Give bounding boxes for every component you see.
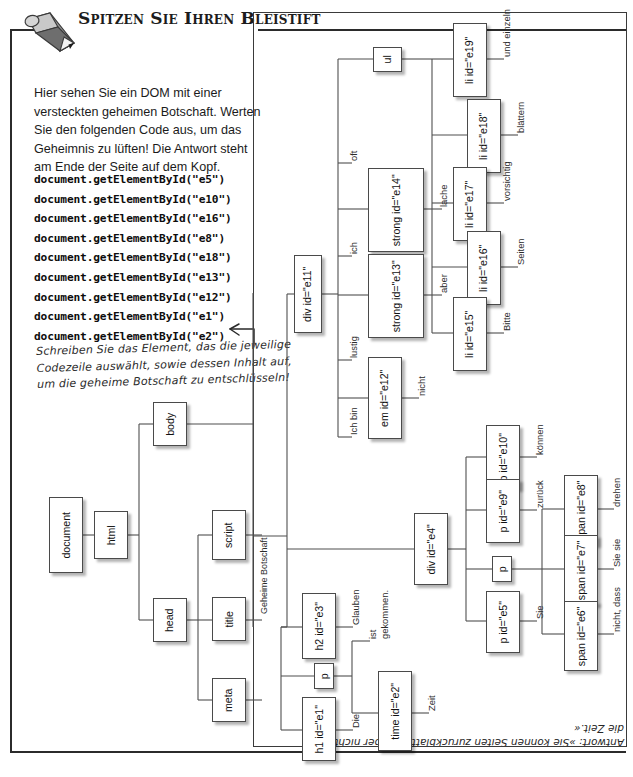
node-label: span id="e7" bbox=[576, 540, 587, 600]
tree-node-ul[interactable]: ul bbox=[373, 47, 402, 72]
tree-node-document[interactable]: document bbox=[49, 497, 83, 573]
node-label: time id="e2" bbox=[390, 683, 401, 740]
tree-node-h1-e1[interactable]: h1 id="e1" bbox=[302, 697, 336, 761]
tree-node-span-e7[interactable]: span id="e7" bbox=[564, 535, 598, 605]
node-label: li id="e19" bbox=[465, 36, 476, 83]
tree-node-div-e4[interactable]: div id="e4" bbox=[414, 513, 448, 585]
node-label: html bbox=[106, 525, 117, 545]
tree-node-p-a[interactable]: p bbox=[314, 663, 334, 689]
node-label: div id="e4" bbox=[426, 524, 437, 574]
tree-node-span-e6[interactable]: span id="e6" bbox=[564, 601, 598, 671]
node-label: p bbox=[319, 673, 330, 679]
text-node-lustig: lustig bbox=[349, 336, 360, 358]
text-node-lache: lache bbox=[439, 185, 450, 207]
tree-trunk-edges bbox=[0, 0, 300, 777]
node-label: ul bbox=[382, 55, 393, 63]
tree-node-strong-e14[interactable]: strong id="e14" bbox=[368, 168, 424, 252]
tree-node-strong-e13[interactable]: strong id="e13" bbox=[368, 254, 424, 338]
text-node-ist: ist bbox=[368, 630, 379, 639]
node-label: p bbox=[497, 566, 508, 572]
tree-node-em-e12[interactable]: em id="e12" bbox=[368, 357, 402, 439]
text-node-blaettern: blättern bbox=[516, 102, 527, 133]
text-node-nicht-dass: nicht, dass bbox=[612, 587, 623, 632]
text-node-und-einzeln: und einzeln bbox=[502, 9, 513, 57]
tree-node-p-b[interactable]: p bbox=[492, 556, 512, 582]
node-label: strong id="e14" bbox=[391, 174, 402, 246]
node-label: meta bbox=[224, 688, 235, 712]
tree-node-time-e2[interactable]: time id="e2" bbox=[378, 671, 412, 751]
node-label: p id="e9" bbox=[498, 490, 509, 533]
tree-node-title[interactable]: title bbox=[212, 597, 246, 641]
node-label: li id="e17" bbox=[465, 180, 476, 227]
exercise-page: Spitzen Sie Ihren Bleistift Hier sehen S… bbox=[0, 0, 633, 777]
text-node-koennen: können bbox=[535, 424, 546, 455]
node-label: body bbox=[165, 413, 176, 436]
tree-node-li-e15[interactable]: li id="e15" bbox=[453, 297, 487, 371]
dom-tree-panel: ul li id="e19" li id="e18" li id="e17" l… bbox=[253, 12, 627, 747]
tree-node-meta[interactable]: meta bbox=[212, 678, 246, 722]
node-label: li id="e18" bbox=[479, 112, 490, 159]
text-node-seiten: Seiten bbox=[516, 238, 527, 265]
node-label: em id="e12" bbox=[380, 369, 391, 426]
text-node-oft: oft bbox=[349, 151, 360, 161]
text-node-aber: aber bbox=[439, 274, 450, 293]
text-node-vorsichtig: vorsichtig bbox=[502, 161, 513, 201]
node-label: div id="e11" bbox=[303, 266, 314, 321]
node-label: head bbox=[165, 608, 176, 632]
node-label: p id="e5" bbox=[498, 601, 509, 644]
tree-node-li-e16[interactable]: li id="e16" bbox=[467, 231, 501, 305]
tree-node-h2-e3[interactable]: h2 id="e3" bbox=[302, 593, 336, 659]
node-label: document bbox=[61, 512, 72, 559]
node-label: h2 id="e3" bbox=[314, 602, 325, 650]
node-label: li id="e16" bbox=[479, 244, 490, 291]
text-node-zurueck: drehen bbox=[612, 478, 623, 507]
text-node-sie-sie: Sie sie bbox=[612, 539, 623, 567]
text-node-label: Ich bin bbox=[348, 407, 359, 435]
node-label: li id="e15" bbox=[465, 310, 476, 357]
tree-node-li-e17[interactable]: li id="e17" bbox=[453, 167, 487, 241]
tree-node-body[interactable]: body bbox=[153, 402, 187, 446]
node-label: span id="e6" bbox=[576, 606, 587, 666]
tree-node-script[interactable]: script bbox=[212, 510, 246, 560]
node-label: p id="e10" bbox=[498, 433, 509, 481]
tree-node-head[interactable]: head bbox=[153, 598, 187, 642]
text-node-sie: Sie bbox=[535, 605, 546, 619]
text-node-die: Die bbox=[351, 714, 362, 728]
text-node-drehen: zurück bbox=[535, 480, 546, 508]
text-node-ich-bin: Ich bin bbox=[349, 395, 359, 435]
tree-node-html[interactable]: html bbox=[94, 511, 128, 559]
node-label: script bbox=[224, 522, 235, 547]
node-label: span id="e8" bbox=[576, 480, 587, 540]
text-node-geheime-botschaft: Geheime Botschaft bbox=[259, 537, 270, 614]
text-node-gekommen: gekommen. bbox=[380, 590, 391, 639]
text-node-zeit: Zeit bbox=[427, 695, 438, 711]
node-label: strong id="e13" bbox=[391, 260, 402, 332]
tree-node-p-e9[interactable]: p id="e9" bbox=[486, 479, 520, 543]
text-node-bitte: Bitte bbox=[502, 312, 513, 331]
text-node-glauben: Glauben bbox=[351, 590, 362, 625]
node-label: h1 id="e1" bbox=[314, 705, 325, 753]
text-node-nicht: nicht bbox=[417, 376, 428, 396]
node-label: title bbox=[224, 611, 235, 628]
text-node-ich: ich bbox=[349, 242, 360, 254]
tree-node-li-e19[interactable]: li id="e19" bbox=[453, 23, 487, 97]
tree-node-li-e18[interactable]: li id="e18" bbox=[467, 99, 501, 173]
dom-tree: ul li id="e19" li id="e18" li id="e17" l… bbox=[254, 13, 626, 746]
tree-node-p-e5[interactable]: p id="e5" bbox=[486, 591, 520, 653]
